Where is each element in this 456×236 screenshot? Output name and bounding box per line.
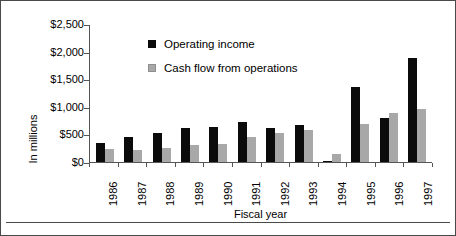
x-axis-tick-label-1993: 1993 [308, 166, 319, 206]
x-axis-tick-label-1994: 1994 [337, 166, 348, 206]
bar-1988-series-1 [162, 148, 171, 162]
bar-1991-series-1 [247, 137, 256, 162]
legend-item-cash-flow: Cash flow from operations [148, 62, 298, 74]
x-axis-title: Fiscal year [89, 208, 432, 220]
y-axis-tick-label: $2,000 [22, 47, 84, 58]
bar-1995-series-0 [351, 87, 360, 162]
bar-1987-series-1 [133, 150, 142, 162]
bar-group [320, 25, 344, 162]
bar-1989-series-0 [181, 128, 190, 162]
legend-item-operating-income: Operating income [148, 38, 298, 50]
bar-1987-series-0 [124, 137, 133, 162]
black-square-swatch-icon [148, 40, 156, 48]
y-axis-tick [84, 108, 89, 109]
bar-1996-series-1 [389, 113, 398, 162]
x-axis-tick-label-1987: 1987 [137, 166, 148, 206]
gray-square-swatch-icon [148, 64, 156, 72]
bar-1989-series-1 [190, 145, 199, 162]
chart-legend: Operating income Cash flow from operatio… [148, 38, 298, 74]
y-axis-tick-label: $1,000 [22, 102, 84, 113]
x-axis-tick-label-1996: 1996 [394, 166, 405, 206]
y-axis-tick-label: $1,500 [22, 74, 84, 85]
x-axis-tick-label-1988: 1988 [165, 166, 176, 206]
bar-1995-series-1 [360, 124, 369, 162]
bar-1986-series-0 [96, 143, 105, 162]
y-axis-tick [84, 135, 89, 136]
x-axis-labels: 1986198719881989199019911992199319941995… [89, 168, 432, 208]
bar-1993-series-0 [295, 125, 304, 162]
y-axis-tick [84, 80, 89, 81]
x-axis-tick-label-1991: 1991 [251, 166, 262, 206]
legend-label: Cash flow from operations [164, 62, 298, 74]
y-axis-tick-label: $0 [22, 157, 84, 168]
x-axis-tick-label-1990: 1990 [223, 166, 234, 206]
x-axis-tick-label-1995: 1995 [366, 166, 377, 206]
legend-label: Operating income [164, 38, 255, 50]
bar-1994-series-1 [332, 154, 341, 162]
bar-1986-series-1 [105, 149, 114, 162]
x-axis-tick [89, 163, 90, 167]
bar-group [405, 25, 429, 162]
bar-1990-series-0 [209, 127, 218, 162]
y-axis-tick [84, 163, 89, 164]
x-axis-tick-label-1986: 1986 [108, 166, 119, 206]
y-axis-labels: $0$500$1,000$1,500$2,000$2,500 [14, 0, 84, 236]
bar-1991-series-0 [238, 122, 247, 162]
bar-1990-series-1 [218, 144, 227, 162]
bar-group [93, 25, 117, 162]
bar-1993-series-1 [304, 130, 313, 162]
bar-1997-series-0 [408, 58, 417, 162]
x-axis-tick-label-1989: 1989 [194, 166, 205, 206]
y-axis-tick-label: $2,500 [22, 19, 84, 30]
bar-1994-series-0 [323, 161, 332, 162]
bar-1997-series-1 [417, 109, 426, 162]
bar-1988-series-0 [153, 133, 162, 162]
y-axis-tick [84, 25, 89, 26]
bar-1992-series-1 [275, 133, 284, 162]
y-axis-tick-label: $500 [22, 129, 84, 140]
x-axis-tick-label-1997: 1997 [423, 166, 434, 206]
y-axis-tick [84, 53, 89, 54]
bar-group [348, 25, 372, 162]
bar-1992-series-0 [266, 128, 275, 162]
bar-group [121, 25, 145, 162]
bar-1996-series-0 [380, 118, 389, 162]
bar-chart: In millions $0$500$1,000$1,500$2,000$2,5… [0, 0, 456, 236]
bar-group [377, 25, 401, 162]
x-axis-tick-label-1992: 1992 [280, 166, 291, 206]
